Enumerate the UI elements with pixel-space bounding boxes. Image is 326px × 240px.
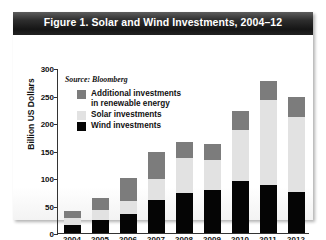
y-axis-tick-label: 200 [41,120,54,129]
y-axis-tick-mark [54,97,58,98]
bar-segment-additional [120,178,137,201]
y-axis-tick-label: 0 [50,230,54,234]
bar-segment-additional [204,144,221,161]
bar-segment-additional [64,211,81,218]
bar-segment-wind [64,225,81,233]
y-axis-tick-mark [54,207,58,208]
wind-swatch-icon [77,122,86,131]
bar-segment-additional [92,198,109,210]
bar-segment-additional [176,142,193,159]
bar-segment-additional [148,152,165,180]
additional-swatch-icon [77,90,86,99]
bar-segment-additional [288,97,305,117]
source-note: Source: Bloomberg [65,75,245,84]
y-axis-tick-label: 150 [41,147,54,156]
bar-2008 [176,142,193,233]
bar-segment-wind [120,214,137,233]
bar-segment-solar [148,179,165,200]
y-axis-tick-label: 250 [41,92,54,101]
y-axis-title: Billion US Dollars [26,64,36,164]
bar-2005 [92,198,109,233]
y-axis-tick-label: 100 [41,175,54,184]
y-axis-tick-mark [54,69,58,70]
bar-segment-solar [120,201,137,214]
bar-segment-solar [176,158,193,193]
solar-swatch-icon [77,111,86,120]
bar-2012 [288,97,305,233]
figure-title: Figure 1. Solar and Wind Investments, 20… [13,16,313,28]
legend-label-solar: Solar investments [91,110,162,120]
legend-label-additional: Additional investments in renewable ener… [91,89,181,109]
bar-2009 [204,144,221,233]
bar-segment-wind [204,190,221,233]
y-axis-tick-label: 300 [41,65,54,74]
legend-item-wind: Wind investments [65,121,245,131]
bar-segment-solar [64,218,81,226]
bar-segment-solar [204,160,221,190]
y-axis-tick-mark [54,179,58,180]
bar-segment-solar [260,100,277,184]
bar-segment-solar [288,117,305,192]
bar-segment-wind [148,200,165,233]
bar-2007 [148,152,165,233]
bar-segment-wind [232,181,249,233]
bar-2004 [64,211,81,233]
bar-segment-wind [260,185,277,233]
chart-legend: Source: Bloomberg Additional investments… [65,75,245,132]
y-axis-tick-label: 50 [45,202,54,211]
figure-card: Figure 1. Solar and Wind Investments, 20… [13,12,313,220]
bar-segment-solar [232,130,249,182]
figure-container: Figure 1. Solar and Wind Investments, 20… [0,0,326,233]
bar-segment-wind [176,193,193,233]
figure-body: Billion US Dollars 050100150200250300200… [13,35,313,220]
bar-segment-wind [92,220,109,233]
y-axis-tick-mark [54,124,58,125]
bar-segment-wind [288,192,305,233]
legend-item-solar: Solar investments [65,110,245,120]
y-axis-tick-mark [54,152,58,153]
bar-2006 [120,178,137,233]
figure-title-band: Figure 1. Solar and Wind Investments, 20… [13,12,313,35]
legend-label-wind: Wind investments [91,121,161,131]
bar-segment-solar [92,210,109,220]
legend-item-additional: Additional investments in renewable ener… [65,89,245,109]
bar-2011 [260,81,277,233]
bar-segment-additional [260,81,277,101]
